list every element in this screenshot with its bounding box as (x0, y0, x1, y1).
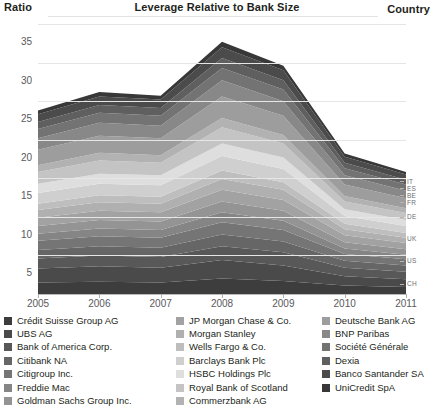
legend-item[interactable]: Banco Santander SA (322, 368, 434, 381)
legend-swatch (322, 370, 330, 378)
grid-line (38, 140, 406, 141)
legend-label: Citibank NA (17, 356, 67, 366)
legend-item[interactable]: Morgan Stanley (176, 327, 326, 340)
legend-item[interactable]: Commerzbank AG (176, 394, 326, 407)
legend-item[interactable]: Barclays Bank Plc (176, 354, 326, 367)
x-axis-tick-label: 2007 (150, 298, 172, 309)
chart-figure: Ratio Leverage Relative to Bank Size Cou… (0, 0, 434, 414)
legend-item[interactable]: Bank of America Corp. (4, 341, 176, 354)
x-axis-tick-label: 2010 (334, 298, 356, 309)
y-axis-tick-label: 15 (21, 191, 32, 201)
legend-swatch (322, 357, 330, 365)
country-axis-label-it: IT (407, 178, 413, 185)
legend-column-1: Crédit Suisse Group AGUBS AGBank of Amer… (4, 314, 176, 408)
plot-area (38, 18, 406, 296)
country-axis-label-es: ES (407, 185, 416, 192)
legend-column-2: JP Morgan Chase & Co.Morgan StanleyWells… (176, 314, 326, 408)
legend-swatch (4, 330, 12, 338)
x-axis-tick-label: 2011 (395, 298, 417, 309)
chart-header: Ratio Leverage Relative to Bank Size Cou… (0, 0, 434, 18)
legend-label: Bank of America Corp. (17, 342, 112, 352)
country-axis-label-us: US (407, 257, 416, 264)
country-axis-tick (400, 202, 404, 203)
grid-line (38, 178, 406, 179)
chart-legend: Crédit Suisse Group AGUBS AGBank of Amer… (0, 314, 434, 414)
legend-swatch (176, 343, 184, 351)
x-axis-tick-label: 2005 (27, 298, 49, 309)
legend-swatch (4, 397, 12, 405)
legend-item[interactable]: Wells Fargo & Co. (176, 341, 326, 354)
y-axis-tick-label: 35 (21, 37, 32, 47)
legend-label: Crédit Suisse Group AG (17, 316, 118, 326)
legend-item[interactable]: Société Générale (322, 341, 434, 354)
country-axis-label-fr: FR (407, 199, 416, 206)
x-axis-tick-label: 2006 (88, 298, 110, 309)
right-axis-title: Country (387, 3, 430, 15)
legend-label: Banco Santander SA (335, 369, 424, 379)
x-axis-tick (345, 294, 346, 298)
legend-label: Freddie Mac (17, 383, 70, 393)
legend-swatch (322, 384, 330, 392)
legend-item[interactable]: Royal Bank of Scotland (176, 381, 326, 394)
legend-label: Barclays Bank Plc (189, 356, 266, 366)
legend-swatch (4, 343, 12, 351)
x-axis-tick (161, 294, 162, 298)
legend-swatch (176, 384, 184, 392)
legend-swatch (322, 343, 330, 351)
stacked-area-series (38, 18, 406, 296)
legend-item[interactable]: Citibank NA (4, 354, 176, 367)
legend-item[interactable]: Crédit Suisse Group AG (4, 314, 176, 327)
grid-line (38, 63, 406, 64)
legend-item[interactable]: Citigroup Inc. (4, 368, 176, 381)
legend-swatch (4, 370, 12, 378)
country-axis-tick (400, 261, 404, 262)
grid-line (38, 24, 406, 25)
legend-label: Commerzbank AG (189, 396, 267, 406)
legend-label: Goldman Sachs Group Inc. (17, 396, 132, 406)
legend-swatch (176, 330, 184, 338)
x-axis-tick (38, 294, 39, 298)
legend-item[interactable]: Freddie Mac (4, 381, 176, 394)
legend-swatch (4, 317, 12, 325)
country-axis-tick (400, 188, 404, 189)
legend-item[interactable]: UniCredit SpA (322, 381, 434, 394)
x-axis-tick-label: 2009 (272, 298, 294, 309)
y-axis-labels: 5101520253035 (0, 18, 36, 300)
legend-item[interactable]: HSBC Holdings Plc (176, 368, 326, 381)
legend-item[interactable]: UBS AG (4, 327, 176, 340)
x-axis-tick-label: 2008 (211, 298, 233, 309)
legend-item[interactable]: Goldman Sachs Group Inc. (4, 394, 176, 407)
country-axis-tick (400, 238, 404, 239)
legend-swatch (176, 370, 184, 378)
legend-label: UniCredit SpA (335, 383, 395, 393)
legend-swatch (176, 357, 184, 365)
legend-label: Royal Bank of Scotland (189, 383, 288, 393)
country-axis-tick (400, 195, 404, 196)
country-axis: ITESBEFRDEUKUSCH (400, 18, 434, 296)
x-axis-labels: 2005200620072008200920102011 (0, 298, 434, 312)
grid-line (38, 217, 406, 218)
country-axis-label-be: BE (407, 192, 416, 199)
legend-swatch (176, 397, 184, 405)
legend-swatch (322, 317, 330, 325)
legend-item[interactable]: Deutsche Bank AG (322, 314, 434, 327)
grid-line (38, 101, 406, 102)
x-axis-tick (406, 294, 407, 298)
legend-item[interactable]: BNP Paribas (322, 327, 434, 340)
header-divider (48, 16, 378, 17)
legend-label: Citigroup Inc. (17, 369, 73, 379)
x-axis-tick (99, 294, 100, 298)
legend-label: Morgan Stanley (189, 329, 256, 339)
legend-item[interactable]: Dexia (322, 354, 434, 367)
legend-swatch (4, 357, 12, 365)
y-axis-tick-label: 5 (26, 268, 32, 278)
legend-swatch (4, 384, 12, 392)
legend-item[interactable]: JP Morgan Chase & Co. (176, 314, 326, 327)
country-axis-tick (400, 181, 404, 182)
legend-label: Société Générale (335, 342, 408, 352)
country-axis-label-uk: UK (407, 235, 416, 242)
x-axis-tick (222, 294, 223, 298)
legend-label: HSBC Holdings Plc (189, 369, 271, 379)
legend-column-3: Deutsche Bank AGBNP ParibasSociété Génér… (322, 314, 434, 394)
legend-label: BNP Paribas (335, 329, 389, 339)
